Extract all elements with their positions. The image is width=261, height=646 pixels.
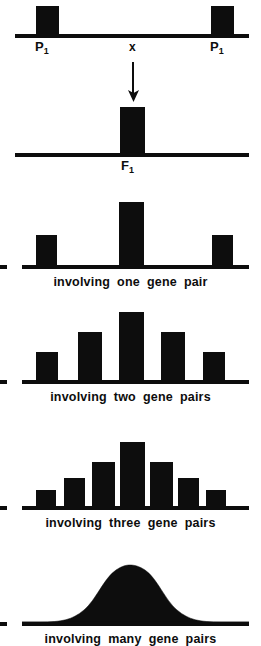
label-p1-right-text: P	[210, 39, 219, 54]
caption-three-word-0: involving	[45, 517, 102, 530]
panel-f1-generation: F1	[0, 105, 261, 175]
bar-p1-left	[36, 6, 59, 34]
caption-three-word-2: gene	[148, 517, 178, 530]
bar-three-4	[120, 442, 145, 506]
caption-many-word-2: gene	[149, 633, 179, 646]
caption-two-word-3: pairs	[180, 391, 211, 404]
p1-bars	[0, 0, 261, 34]
bar-f1	[120, 107, 145, 153]
axis-one-gene-pair	[22, 265, 249, 269]
panel-many-gene-pairs: involvingmanygenepairs	[0, 560, 261, 645]
panel-three-gene-pairs: involvingthreegenepairs	[0, 440, 261, 535]
three-gene-pairs-bars	[0, 440, 261, 506]
bar-three-5	[150, 462, 173, 506]
f1-bars	[0, 105, 261, 153]
bar-two-2	[78, 332, 102, 380]
caption-one-word-0: involving	[53, 276, 110, 289]
axis-tick-two	[0, 380, 7, 384]
caption-two-word-2: gene	[143, 391, 173, 404]
label-p1-left-sub: 1	[44, 46, 49, 56]
caption-two-gene-pairs: involvingtwogenepairs	[0, 391, 261, 404]
axis-tick-three	[0, 506, 7, 510]
bar-one-3	[212, 235, 233, 265]
label-p1-right-sub: 1	[219, 46, 224, 56]
bar-three-6	[178, 478, 199, 506]
bar-three-1	[36, 490, 56, 506]
axis-tick-one	[0, 265, 7, 269]
normal-distribution-curve	[0, 560, 261, 624]
caption-one-word-3: pair	[184, 276, 208, 289]
panel-two-gene-pairs: involvingtwogenepairs	[0, 310, 261, 405]
bar-one-2	[119, 202, 144, 265]
bar-two-3	[119, 312, 144, 380]
label-p1-left: P1	[35, 40, 49, 53]
bar-three-2	[64, 478, 85, 506]
bar-two-5	[203, 352, 225, 380]
axis-many-gene-pairs	[22, 622, 249, 626]
bar-p1-right	[211, 6, 234, 34]
axis-f1	[15, 153, 249, 157]
label-p1-left-text: P	[35, 39, 44, 54]
bar-two-4	[161, 332, 185, 380]
axis-p1	[15, 34, 249, 38]
axis-tick-many	[0, 622, 7, 626]
caption-one-gene-pair: involvingonegenepair	[0, 276, 261, 289]
label-p1-right: P1	[210, 40, 224, 53]
caption-many-word-1: many	[108, 633, 141, 646]
two-gene-pairs-bars	[0, 310, 261, 380]
bar-two-1	[36, 352, 58, 380]
one-gene-pair-bars	[0, 200, 261, 265]
axis-three-gene-pairs	[22, 506, 249, 510]
panel-one-gene-pair: involvingonegenepair	[0, 200, 261, 295]
arrow-head-icon	[128, 90, 139, 102]
caption-many-word-3: pairs	[186, 633, 217, 646]
caption-many-word-0: involving	[44, 633, 101, 646]
bar-three-7	[206, 490, 226, 506]
caption-three-word-1: three	[109, 517, 141, 530]
caption-two-word-0: involving	[50, 391, 107, 404]
axis-two-gene-pairs	[22, 380, 249, 384]
label-f1-text: F	[121, 158, 129, 173]
caption-many-gene-pairs: involvingmanygenepairs	[0, 633, 261, 646]
normal-curve-wrap	[0, 560, 261, 624]
caption-one-word-1: one	[117, 276, 140, 289]
panel-p1-generation: P1 P1 x	[0, 0, 261, 60]
caption-one-word-2: gene	[147, 276, 177, 289]
bar-three-3	[92, 462, 115, 506]
cross-arrow	[132, 62, 134, 102]
label-cross: x	[129, 41, 136, 53]
label-f1: F1	[121, 159, 134, 172]
label-f1-sub: 1	[129, 165, 134, 175]
caption-three-gene-pairs: involvingthreegenepairs	[0, 517, 261, 530]
bar-one-1	[36, 235, 57, 265]
caption-three-word-3: pairs	[185, 517, 216, 530]
caption-two-word-1: two	[114, 391, 136, 404]
